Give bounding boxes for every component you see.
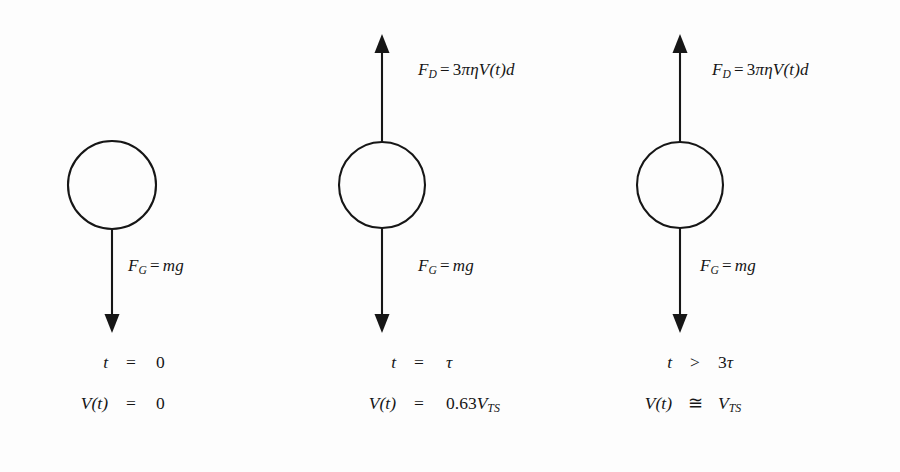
force-diagram-t0: [0, 0, 300, 345]
drag-diameter-term: d: [800, 60, 809, 79]
drag-velocity-term: V(t): [773, 60, 800, 79]
state-labels-t0: t = 0 V(t) = 0: [0, 352, 300, 434]
drag-operator: =: [437, 60, 453, 79]
gravity-force-label: FG=mg: [128, 256, 184, 277]
state-value: 3τ: [718, 352, 733, 373]
state-value-symbol: τ: [446, 352, 452, 372]
state-symbol: V(t): [600, 393, 672, 414]
gravity-force-label: FG=mg: [418, 256, 474, 277]
state-relation: =: [406, 352, 432, 373]
drag-force-label: FD=3πηV(t)d: [712, 60, 809, 81]
drag-lhs-subscript: D: [429, 68, 437, 81]
gravity-lhs: F: [418, 256, 429, 275]
drag-force-arrow: [673, 34, 688, 142]
state-symbol: V(t): [300, 393, 396, 414]
state-value: VTS: [718, 393, 741, 416]
sphere: [68, 141, 156, 229]
gravity-lhs-subscript: G: [139, 264, 147, 277]
state-relation: =: [118, 393, 144, 414]
state-relation: =: [118, 352, 144, 373]
state-value: 0.63VTS: [446, 393, 500, 416]
figure-canvas: FG=mg t = 0 V(t) = 0: [0, 0, 900, 472]
force-diagram-tau: [300, 0, 600, 345]
gravity-rhs: mg: [735, 256, 756, 275]
state-value-number: 0: [156, 352, 165, 372]
state-relation: ≅: [682, 393, 708, 414]
drag-force-arrow: [375, 34, 390, 142]
drag-greek-constants: πη: [461, 60, 478, 79]
gravity-lhs-subscript: G: [429, 264, 437, 277]
panel-t-equals-0: FG=mg t = 0 V(t) = 0: [0, 0, 300, 472]
gravity-operator: =: [147, 256, 163, 275]
state-labels-steady-state: t > 3τ V(t) ≅ VTS: [600, 352, 900, 434]
gravity-force-label: FG=mg: [700, 256, 756, 277]
state-value-number: 0: [156, 393, 165, 413]
state-labels-tau: t = τ V(t) = 0.63VTS: [300, 352, 600, 434]
gravity-lhs-subscript: G: [711, 264, 719, 277]
gravity-operator: =: [437, 256, 453, 275]
state-symbol: V(t): [0, 393, 108, 414]
drag-lhs-subscript: D: [723, 68, 731, 81]
drag-greek-constants: πη: [755, 60, 772, 79]
gravity-rhs: mg: [163, 256, 184, 275]
gravity-rhs: mg: [453, 256, 474, 275]
drag-diameter-term: d: [506, 60, 515, 79]
sphere: [339, 142, 425, 228]
state-value: 0: [156, 393, 165, 414]
state-value-symbol: V: [718, 393, 729, 413]
state-value-symbol: V: [477, 393, 488, 413]
gravity-force-arrow: [375, 228, 390, 333]
gravity-lhs: F: [128, 256, 139, 275]
state-symbol: t: [0, 352, 108, 373]
gravity-lhs: F: [700, 256, 711, 275]
state-relation: =: [406, 393, 432, 414]
sphere: [637, 142, 723, 228]
force-diagram-steady-state: [600, 0, 900, 345]
panel-t-greater-3tau: FD=3πηV(t)d FG=mg t > 3τ V(t) ≅ VTS: [600, 0, 900, 472]
gravity-operator: =: [719, 256, 735, 275]
gravity-force-arrow: [105, 229, 120, 333]
state-symbol: t: [300, 352, 396, 373]
state-value-number: 0.63: [446, 393, 477, 413]
state-value: 0: [156, 352, 165, 373]
state-row-velocity: V(t) = 0: [0, 393, 300, 434]
state-value: τ: [446, 352, 452, 373]
state-row-time: t > 3τ: [600, 352, 900, 393]
drag-lhs: F: [418, 60, 429, 79]
gravity-force-arrow: [673, 228, 688, 333]
state-symbol: t: [600, 352, 672, 373]
state-row-velocity: V(t) = 0.63VTS: [300, 393, 600, 434]
state-row-time: t = τ: [300, 352, 600, 393]
drag-velocity-term: V(t): [479, 60, 506, 79]
drag-operator: =: [731, 60, 747, 79]
state-row-time: t = 0: [0, 352, 300, 393]
state-value-subscript: TS: [487, 401, 500, 415]
state-value-symbol: τ: [727, 352, 733, 372]
drag-lhs: F: [712, 60, 723, 79]
state-value-subscript: TS: [729, 401, 742, 415]
panel-t-equals-tau: FD=3πηV(t)d FG=mg t = τ V(t) = 0.63VTS: [300, 0, 600, 472]
drag-force-label: FD=3πηV(t)d: [418, 60, 515, 81]
state-row-velocity: V(t) ≅ VTS: [600, 393, 900, 434]
state-relation: >: [682, 352, 708, 373]
state-value-number: 3: [718, 352, 727, 372]
